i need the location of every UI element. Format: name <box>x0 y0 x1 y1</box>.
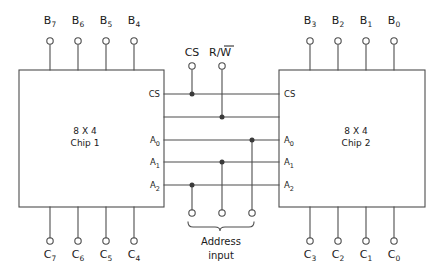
junction-a1 <box>220 160 225 165</box>
label-c5: C5 <box>100 248 113 263</box>
label-c1: C1 <box>360 248 373 263</box>
label-b0: B0 <box>388 14 401 29</box>
chip2-pin-label-a0: A0 <box>284 135 294 148</box>
terminal-address-a1[interactable] <box>219 210 225 216</box>
junction-a0 <box>250 138 255 143</box>
terminal-b3[interactable] <box>307 38 313 44</box>
terminal-c0[interactable] <box>391 238 397 244</box>
chip2-size-label: 8 X 4 <box>344 126 368 136</box>
label-c2: C2 <box>332 248 345 263</box>
terminal-b1[interactable] <box>363 38 369 44</box>
label-b1: B1 <box>360 14 373 29</box>
label-b6: B6 <box>72 14 85 29</box>
chip2-pin-label-a1: A1 <box>284 157 294 170</box>
circuit-svg: B7 B6 B5 B4 B3 B2 B1 B0 C7 C6 C5 C4 C3 C… <box>0 0 442 280</box>
label-c4: C4 <box>128 248 141 263</box>
terminal-c4[interactable] <box>131 238 137 244</box>
junction-cs <box>190 92 195 97</box>
memory-expansion-diagram: B7 B6 B5 B4 B3 B2 B1 B0 C7 C6 C5 C4 C3 C… <box>0 0 442 280</box>
label-c7: C7 <box>44 248 57 263</box>
terminal-cs[interactable] <box>189 63 195 69</box>
chip1-pin-label-cs: CS <box>149 89 160 99</box>
terminal-c2[interactable] <box>335 238 341 244</box>
chip1-name-label: Chip 1 <box>71 138 100 148</box>
terminal-address-a2[interactable] <box>189 210 195 216</box>
junction-a2 <box>190 183 195 188</box>
terminal-c6[interactable] <box>75 238 81 244</box>
chip2-name-label: Chip 2 <box>342 138 371 148</box>
terminal-b6[interactable] <box>75 38 81 44</box>
junction-rw <box>220 115 225 120</box>
chip2-pin-label-cs: CS <box>284 89 295 99</box>
terminal-b0[interactable] <box>391 38 397 44</box>
label-b5: B5 <box>100 14 113 29</box>
terminal-c7[interactable] <box>47 238 53 244</box>
label-cs-input: CS <box>185 46 200 59</box>
terminal-b5[interactable] <box>103 38 109 44</box>
label-b3: B3 <box>304 14 317 29</box>
label-b7: B7 <box>44 14 57 29</box>
label-b2: B2 <box>332 14 345 29</box>
label-c6: C6 <box>72 248 85 263</box>
address-caption-line1: Address <box>201 236 241 247</box>
terminal-c3[interactable] <box>307 238 313 244</box>
chip1-pin-label-a2: A2 <box>150 180 160 193</box>
terminal-address-a0[interactable] <box>249 210 255 216</box>
label-rw-input: R/W <box>209 46 231 59</box>
address-caption-line2: input <box>208 250 234 261</box>
label-c0: C0 <box>388 248 401 263</box>
chip1-size-label: 8 X 4 <box>73 126 97 136</box>
chip2-pin-label-a2: A2 <box>284 180 294 193</box>
chip1-pin-label-a1: A1 <box>150 157 160 170</box>
chip1-pin-label-a0: A0 <box>150 135 160 148</box>
label-b4: B4 <box>128 14 141 29</box>
terminal-rw[interactable] <box>219 63 225 69</box>
terminal-b4[interactable] <box>131 38 137 44</box>
terminal-c1[interactable] <box>363 238 369 244</box>
label-c3: C3 <box>304 248 317 263</box>
terminal-b7[interactable] <box>47 38 53 44</box>
address-brace <box>188 222 254 231</box>
terminal-b2[interactable] <box>335 38 341 44</box>
terminal-c5[interactable] <box>103 238 109 244</box>
